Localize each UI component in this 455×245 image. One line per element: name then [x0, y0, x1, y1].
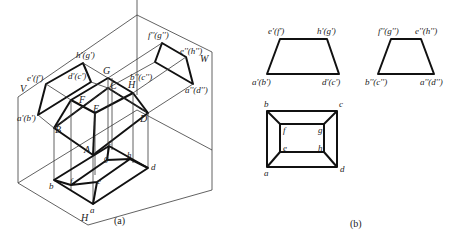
label-A: A	[83, 144, 91, 155]
label-E: E	[92, 103, 99, 114]
top-label-g: g	[318, 125, 323, 135]
top-edge-d-h	[324, 152, 337, 167]
label-H-plane: H	[80, 212, 89, 223]
front-label-d-c: d'(c')	[322, 77, 340, 87]
top-edge-c-g	[324, 111, 337, 124]
label-a-b-prime: a'(b')	[17, 113, 36, 123]
projection-diagram: V W H e'(f') h'(g') a'(b') d'(c') f''(g'…	[0, 0, 455, 245]
side-label-b-c: b''(c'')	[365, 77, 387, 87]
caption-a: (a)	[114, 215, 125, 227]
top-label-f: f	[283, 125, 287, 135]
side-label-e-h: e''(h'')	[415, 26, 437, 36]
top-edge-b-f	[267, 111, 280, 124]
label-h: h	[127, 150, 132, 160]
front-label-a-b: a'(b')	[252, 77, 271, 87]
top-view-outer	[267, 111, 337, 167]
label-b: b	[49, 181, 54, 191]
edge-D-H	[133, 93, 148, 113]
label-a: a	[90, 205, 95, 215]
ray	[38, 115, 54, 128]
panel-b: e'(f') h'(g') a'(b') d'(c') f''(g'') e''…	[252, 26, 443, 230]
side-label-a-d: a''(d'')	[420, 77, 443, 87]
top-label-c: c	[339, 99, 343, 109]
label-D: D	[139, 113, 148, 124]
label-c: c	[108, 137, 112, 147]
caption-b: (b)	[350, 218, 362, 230]
label-e-h-dprime: e''(h'')	[180, 46, 202, 56]
top-label-h: h	[318, 143, 323, 153]
label-d: d	[151, 162, 156, 172]
label-a-d-dprime: a''(d'')	[185, 85, 208, 95]
side-view-trapezoid	[378, 39, 434, 74]
label-C: C	[110, 80, 117, 91]
label-d-c-prime: d'(c')	[68, 71, 86, 81]
label-V: V	[20, 83, 28, 94]
label-e: e	[97, 176, 101, 186]
label-F: F	[78, 94, 86, 105]
top-label-d: d	[340, 164, 345, 174]
label-G: G	[103, 65, 110, 76]
label-e-f-prime: e'(f')	[27, 73, 43, 83]
top-edge-a-e	[267, 152, 280, 167]
h-projection-outer	[54, 146, 148, 204]
label-f-g-dprime: f''(g'')	[148, 30, 169, 40]
top-label-b: b	[264, 99, 269, 109]
front-label-e-f: e'(f')	[268, 26, 284, 36]
front-view-trapezoid	[267, 39, 339, 74]
side-label-f-g: f''(g'')	[378, 26, 399, 36]
x-axis-back	[18, 110, 137, 183]
front-label-h-g: h'(g')	[317, 26, 336, 36]
top-label-e: e	[283, 143, 287, 153]
ray	[46, 84, 71, 100]
top-label-a: a	[264, 168, 269, 178]
label-B: B	[55, 124, 61, 135]
label-H-point: H	[127, 79, 136, 90]
label-g: g	[104, 153, 109, 163]
panel-a: V W H e'(f') h'(g') a'(b') d'(c') f''(g'…	[17, 0, 212, 227]
label-h-g-prime: h'(g')	[76, 50, 95, 60]
edge-d-h	[130, 159, 148, 168]
